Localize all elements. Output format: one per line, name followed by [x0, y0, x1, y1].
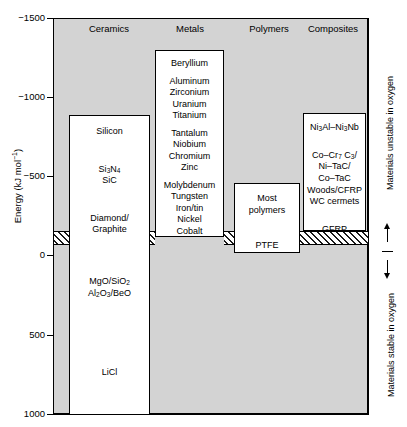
ceramics-item-sic: SiC: [70, 175, 149, 187]
metals-item-uranium: Uranium: [156, 99, 223, 111]
metals-item-tungsten: Tungsten: [156, 191, 223, 203]
composites-item-gfrp: GFRP: [304, 224, 365, 231]
column-header-ceramics: Ceramics: [69, 24, 149, 34]
polymers-item-polymers: polymers: [235, 205, 299, 217]
ni3al-ni: Ni: [310, 122, 319, 132]
column-header-composites: Composites: [293, 24, 373, 34]
ceramics-item-graphite: Graphite: [70, 224, 149, 236]
composites-item-ni-tac: Ni–TaC/: [304, 161, 365, 173]
arrow-divider-line: [382, 251, 393, 252]
transition-band-gap-metals-polymers: [224, 231, 234, 245]
metals-item-chromium: Chromium: [156, 151, 223, 163]
ni3al-nb: Nb: [347, 122, 359, 132]
mgo-sio2-sub: 2: [126, 279, 130, 286]
plot-top-border: [53, 18, 369, 19]
ni3al-al-ni: Al–Ni: [322, 122, 344, 132]
composites-item-co-cr7c3: Co–Cr7 C3/: [304, 150, 365, 162]
annotation-stable-in-oxygen: Materials stable in oxygen: [386, 268, 396, 423]
polymers-item-ptfe: PTFE: [235, 240, 299, 252]
metals-item-zinc: Zinc: [156, 162, 223, 174]
metals-item-molybdenum: Molybdenum: [156, 180, 223, 192]
al2o3-beo: /BeO: [110, 288, 131, 298]
composites-item-wc-cermets: WC cermets: [304, 196, 365, 208]
y-tick-label-1000: 1000: [24, 409, 45, 419]
metals-item-aluminum: Aluminum: [156, 76, 223, 88]
metals-item-nickel: Nickel: [156, 214, 223, 226]
si3n4-sub4: 4: [117, 167, 121, 174]
si3n4-si: Si: [99, 164, 107, 174]
transition-band-right: [300, 231, 368, 245]
plot-right-border: [368, 18, 369, 415]
polymers-item-most: Most: [235, 193, 299, 205]
composites-item-woods-cfrp: Woods/CFRP: [304, 185, 365, 197]
y-tick-mark-1500: [47, 18, 53, 19]
composites-material-box: Ni3Al–Ni3Nb Co–Cr7 C3/ Ni–TaC/ Co–TaC Wo…: [303, 113, 366, 231]
metals-item-niobium: Niobium: [156, 139, 223, 151]
transition-band-left-margin: [54, 231, 69, 245]
y-tick-mark-0: [47, 255, 53, 256]
ceramics-material-box: Silicon Si3N4 SiC Diamond/ Graphite MgO/…: [69, 115, 150, 415]
al2o3-al: Al: [88, 288, 96, 298]
cocr-c: C: [342, 150, 351, 160]
metals-item-iron-tin: Iron/tin: [156, 203, 223, 215]
arrow-up-shaft: [387, 228, 388, 242]
y-tick-mark-500: [47, 176, 53, 177]
y-axis-title-main: Energy (kJ mol: [12, 160, 23, 223]
metals-item-zirconium: Zirconium: [156, 87, 223, 99]
ceramics-item-silicon: Silicon: [70, 126, 149, 138]
y-tick-label-neg500: −500: [24, 171, 45, 181]
annotation-unstable-in-oxygen: Materials unstable in oxygen: [385, 53, 395, 213]
y-axis-title-exponent: −1: [11, 152, 18, 160]
column-header-metals: Metals: [150, 24, 230, 34]
transition-band-gap-ceramics-metals: [150, 231, 155, 245]
composites-item-co-tac: Co–TaC: [304, 173, 365, 185]
y-tick-label-0: 0: [40, 250, 45, 260]
composites-item-ni3al-ni3nb: Ni3Al–Ni3Nb: [304, 122, 365, 134]
ceramics-item-licl: LiCl: [70, 367, 149, 379]
cocr-slash: /: [354, 150, 357, 160]
metals-material-box: Beryllium Aluminum Zirconium Uranium Tit…: [155, 50, 224, 237]
ceramics-item-al2o3-beo: Al2O3/BeO: [70, 288, 149, 300]
metals-item-titanium: Titanium: [156, 110, 223, 122]
metals-item-cobalt: Cobalt: [156, 226, 223, 237]
mgo-sio2-main: MgO/SiO: [89, 276, 126, 286]
cocr-co-cr: Co–Cr: [312, 150, 338, 160]
y-tick-label-neg1000: −1000: [18, 92, 45, 102]
metals-item-beryllium: Beryllium: [156, 58, 223, 70]
polymers-material-box: Most polymers PTFE: [234, 183, 300, 253]
ceramics-item-diamond: Diamond/: [70, 213, 149, 225]
y-tick-label-500: 500: [29, 330, 45, 340]
oxidation-energy-chart: −1500 −1000 −500 0 500 1000 Energy (kJ m…: [0, 0, 407, 427]
y-axis-spine: [53, 18, 54, 415]
y-tick-mark-1000: [47, 97, 53, 98]
al2o3-o: O: [100, 288, 107, 298]
y-tick-label-neg1500: −1500: [18, 13, 45, 23]
y-tick-mark-pos500: [47, 335, 53, 336]
y-axis-title: Energy (kJ mol−1): [11, 121, 23, 251]
y-axis-title-tail: ): [12, 149, 23, 152]
ceramics-item-mgo-sio2: MgO/SiO2: [70, 276, 149, 288]
y-tick-mark-pos1000: [47, 414, 53, 415]
ceramics-item-si3n4: Si3N4: [70, 164, 149, 176]
metals-item-tantalum: Tantalum: [156, 128, 223, 140]
